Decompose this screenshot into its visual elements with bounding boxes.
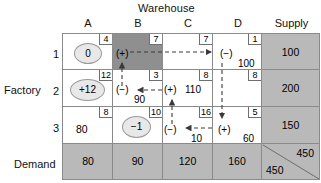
demand-total: 450 (266, 164, 284, 176)
cost-3-b: 10 (149, 107, 162, 118)
cost-1-a: 4 (99, 34, 112, 45)
factory-header: Factory (4, 84, 41, 96)
cell-3-d[interactable]: 5 (+) 60 (213, 107, 262, 144)
demand-value-c: 120 (163, 156, 212, 167)
allocation-3-a: 80 (76, 124, 88, 134)
cost-2-d: 8 (248, 70, 261, 81)
column-header-d: D (213, 17, 263, 29)
supply-cell-1: 100 (262, 33, 320, 70)
column-header-a: A (63, 17, 113, 29)
warehouse-header: Warehouse (138, 2, 195, 14)
demand-value-a: 80 (63, 156, 113, 167)
evaluation-circle-2-a: +12 (70, 79, 105, 101)
cost-3-d: 5 (248, 107, 261, 118)
supply-value-2: 200 (262, 83, 319, 94)
allocation-3-d: 60 (243, 134, 254, 144)
sign-1-d: (−) (220, 49, 233, 59)
evaluation-circle-1-a: 0 (74, 43, 102, 64)
supply-value-1: 100 (262, 47, 319, 58)
allocation-2-b: 90 (134, 95, 145, 105)
cost-2-a: 12 (99, 70, 112, 81)
cell-1-b[interactable]: 7 (+) (113, 33, 163, 70)
demand-header: Demand (14, 158, 56, 170)
cell-3-b[interactable]: 10 −1 (113, 107, 163, 144)
cell-2-b[interactable]: 3 (−) 90 (113, 70, 163, 107)
totals-cell: 450 450 (262, 144, 320, 180)
demand-cell-d: 160 (213, 144, 262, 180)
row-header-3: 3 (48, 122, 59, 134)
cell-2-c[interactable]: 8 (+) 110 (163, 70, 213, 107)
sign-1-b: (+) (116, 49, 129, 59)
cell-1-c[interactable]: 7 (163, 33, 213, 70)
supply-cell-3: 150 (262, 107, 320, 144)
demand-cell-b: 90 (113, 144, 163, 180)
cell-3-c[interactable]: 16 (−) 10 (163, 107, 213, 144)
row-header-2: 2 (48, 85, 59, 97)
sign-2-b: (−) (116, 85, 129, 95)
allocation-1-d: 100 (238, 59, 255, 69)
cost-1-c: 7 (199, 34, 212, 45)
cost-1-b: 7 (149, 34, 162, 45)
allocation-2-c: 110 (185, 85, 201, 95)
cost-2-c: 8 (199, 70, 212, 81)
demand-cell-a: 80 (62, 144, 113, 180)
column-header-c: C (163, 17, 213, 29)
cost-3-c: 16 (199, 107, 212, 118)
demand-value-d: 160 (213, 156, 261, 167)
supply-value-3: 150 (262, 120, 319, 131)
demand-cell-c: 120 (163, 144, 213, 180)
cost-1-d: 1 (248, 34, 261, 45)
supply-header: Supply (262, 17, 321, 29)
cell-1-a[interactable]: 4 0 (62, 33, 113, 70)
transportation-tableau: 4 0 7 (+) 7 1 (−) 100 100 12 +12 3 (−) 9… (62, 33, 320, 180)
evaluation-circle-3-b: −1 (122, 116, 151, 138)
supply-total: 450 (296, 147, 314, 159)
cost-2-b: 3 (149, 70, 162, 81)
sign-3-d: (+) (218, 125, 231, 135)
row-header-1: 1 (48, 48, 59, 60)
demand-value-b: 90 (113, 156, 162, 167)
sign-2-c: (+) (164, 85, 177, 95)
allocation-3-c: 10 (191, 134, 202, 144)
cell-1-d[interactable]: 1 (−) 100 (213, 33, 262, 70)
cost-3-a: 8 (99, 107, 112, 118)
cell-2-a[interactable]: 12 +12 (62, 70, 113, 107)
supply-cell-2: 200 (262, 70, 320, 107)
cell-2-d[interactable]: 8 (213, 70, 262, 107)
column-header-b: B (113, 17, 163, 29)
sign-3-c: (−) (164, 125, 177, 135)
cell-3-a[interactable]: 8 80 (62, 107, 113, 144)
